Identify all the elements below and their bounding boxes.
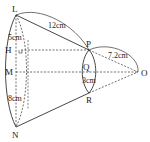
edge-NR <box>16 93 89 127</box>
measure-7.2cm: 7.2cm <box>108 51 129 60</box>
measure-12cm: 12cm <box>48 21 67 30</box>
label-M: M <box>5 67 13 77</box>
label-P: P <box>86 39 91 49</box>
label-R: R <box>86 95 92 105</box>
frustum-diagram: L N P R O H M Q 12cm 5cm 7.2cm 3cm 8cm <box>0 0 150 142</box>
measure-5cm: 5cm <box>8 33 23 42</box>
label-O: O <box>141 68 148 78</box>
label-L: L <box>12 4 18 14</box>
label-Q: Q <box>83 62 90 72</box>
measure-3cm: 3cm <box>82 76 97 85</box>
base-ellipse-back <box>16 15 27 127</box>
right-angle-marker <box>19 50 22 53</box>
top-ellipse-right <box>89 50 96 93</box>
dashed-RO <box>89 72 138 93</box>
measure-8cm: 8cm <box>8 94 23 103</box>
label-H: H <box>5 45 12 55</box>
label-N: N <box>12 130 19 140</box>
